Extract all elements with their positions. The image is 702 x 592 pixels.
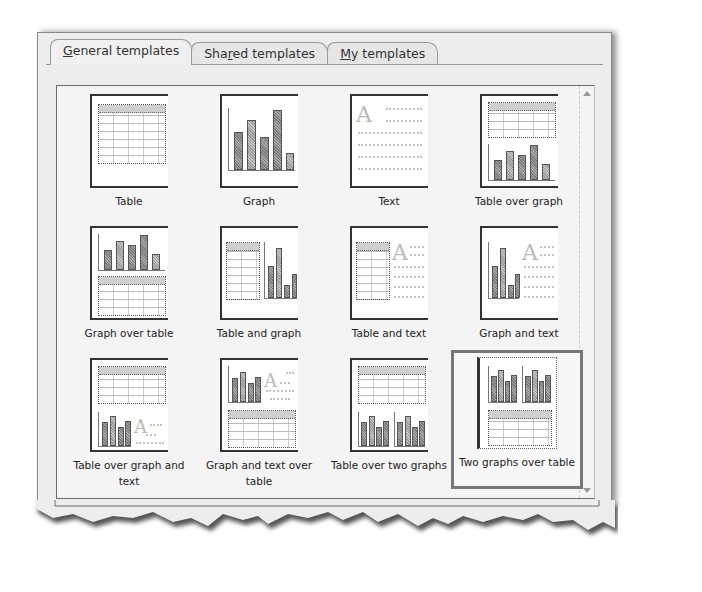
- template-table-over-two-graphs[interactable]: Table over two graphs: [329, 358, 449, 473]
- template-graph[interactable]: Graph: [199, 94, 319, 209]
- template-label: Graph: [199, 193, 319, 209]
- table-over-two-graphs-thumbnail-icon: [350, 358, 428, 452]
- template-label: Table over two graphs: [329, 457, 449, 473]
- template-label: Text: [329, 193, 449, 209]
- table-and-graph-thumbnail-icon: [220, 226, 298, 320]
- template-label: Table and graph: [199, 325, 319, 341]
- template-two-graphs-over-table[interactable]: Two graphs over table: [451, 350, 583, 489]
- template-label: Graph and text: [459, 325, 579, 341]
- text-glyph-icon: A: [356, 104, 372, 126]
- template-graph-and-text-over-table[interactable]: A Graph and text over table: [199, 358, 319, 489]
- tab-bar: General templates Shared templates My te…: [50, 39, 437, 65]
- template-table[interactable]: Table: [69, 94, 189, 209]
- text-thumbnail-icon: A: [350, 94, 428, 188]
- two-graphs-over-table-thumbnail-icon: [477, 357, 557, 449]
- text-glyph-icon: A: [264, 370, 277, 392]
- template-table-over-graph-and-text[interactable]: A Table over graph and text: [69, 358, 189, 489]
- table-thumbnail-icon: [90, 94, 168, 188]
- text-glyph-icon: A: [522, 242, 538, 264]
- template-label: Table and text: [329, 325, 449, 341]
- graph-thumbnail-icon: [220, 94, 298, 188]
- graph-and-text-thumbnail-icon: A: [480, 226, 558, 320]
- table-over-graph-thumbnail-icon: [480, 94, 558, 188]
- torn-edge-decoration: [33, 500, 618, 540]
- template-label: Two graphs over table: [454, 454, 580, 470]
- template-label: Graph over table: [69, 325, 189, 341]
- template-label: Graph and text over table: [199, 457, 319, 489]
- tab-general-templates[interactable]: General templates: [50, 39, 192, 65]
- graph-over-table-thumbnail-icon: [90, 226, 168, 320]
- template-label: Table over graph: [459, 193, 579, 209]
- template-graph-and-text[interactable]: A Graph and text: [459, 226, 579, 341]
- tab-shared-templates[interactable]: Shared templates: [191, 42, 328, 65]
- template-graph-over-table[interactable]: Graph over table: [69, 226, 189, 341]
- template-table-and-graph[interactable]: Table and graph: [199, 226, 319, 341]
- template-dialog: General templates Shared templates My te…: [37, 32, 612, 509]
- scroll-down-arrow-icon[interactable]: [583, 488, 591, 493]
- table-over-graph-and-text-thumbnail-icon: A: [90, 358, 168, 452]
- template-table-and-text[interactable]: A Table and text: [329, 226, 449, 341]
- template-text[interactable]: A Text: [329, 94, 449, 209]
- template-label: Table: [69, 193, 189, 209]
- template-label: Table over graph and text: [69, 457, 189, 489]
- text-glyph-icon: A: [392, 242, 408, 264]
- table-and-text-thumbnail-icon: A: [350, 226, 428, 320]
- graph-and-text-over-table-thumbnail-icon: A: [220, 358, 298, 452]
- tab-my-templates[interactable]: My templates: [327, 42, 438, 65]
- scroll-up-arrow-icon[interactable]: [583, 91, 591, 96]
- template-list[interactable]: Table Graph A: [56, 85, 595, 499]
- template-table-over-graph[interactable]: Table over graph: [459, 94, 579, 209]
